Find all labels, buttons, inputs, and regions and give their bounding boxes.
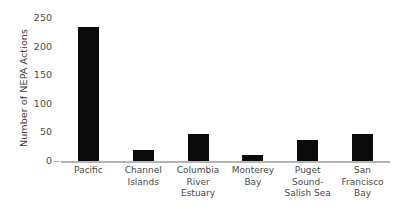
bar-chart: Number of NEPA Actions 050100150200250 P… xyxy=(0,0,405,212)
y-axis-tick-label: 150 xyxy=(34,69,52,80)
bar xyxy=(297,140,318,161)
bar xyxy=(133,150,154,161)
y-axis-tick-label: 250 xyxy=(34,12,52,23)
x-axis-category-label: Pacific xyxy=(61,165,116,177)
y-axis-tick-label: 200 xyxy=(34,41,52,52)
x-axis-category-label: Columbia River Estuary xyxy=(171,165,226,200)
y-axis-tick-label: 100 xyxy=(34,98,52,109)
y-axis-tick-label: 0 xyxy=(46,155,52,166)
x-axis-category-label: Puget Sound- Salish Sea xyxy=(280,165,335,200)
bar xyxy=(242,155,263,161)
x-axis-category-label: Channel Islands xyxy=(116,165,171,188)
x-axis-category-label: Monterey Bay xyxy=(226,165,281,188)
plot-area xyxy=(61,18,390,161)
x-axis-labels: PacificChannel IslandsColumbia River Est… xyxy=(61,165,390,211)
bar xyxy=(78,27,99,161)
bar xyxy=(352,134,373,161)
y-axis-title: Number of NEPA Actions xyxy=(16,13,32,163)
x-axis-line xyxy=(61,161,390,163)
y-axis-tick-label: 50 xyxy=(40,126,52,137)
y-axis-tick-mark xyxy=(54,161,60,162)
bar xyxy=(188,134,209,161)
x-axis-category-label: San Francisco Bay xyxy=(335,165,390,200)
